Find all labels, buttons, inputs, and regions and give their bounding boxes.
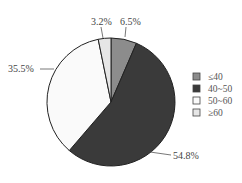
legend-label-40-50: 40~50 <box>208 84 232 94</box>
pie-slices <box>47 38 175 166</box>
legend-swatch-ge60 <box>193 109 200 116</box>
label-ge60: 3.2% <box>91 16 112 27</box>
label-50-60: 35.5% <box>8 63 34 74</box>
legend-swatch-40-50 <box>193 85 200 92</box>
legend-swatch-le40 <box>193 73 200 80</box>
legend-label-ge60: ≥60 <box>208 108 223 118</box>
legend-label-50-60: 50~60 <box>208 96 232 106</box>
pie-chart: 6.5% 3.2% 35.5% 54.8% ≤40 40~50 50~60 ≥6… <box>0 0 242 183</box>
label-40-50: 54.8% <box>173 150 199 161</box>
legend: ≤40 40~50 50~60 ≥60 <box>193 72 232 118</box>
legend-label-le40: ≤40 <box>208 72 223 82</box>
label-le40: 6.5% <box>120 16 141 27</box>
legend-swatch-50-60 <box>193 97 200 104</box>
